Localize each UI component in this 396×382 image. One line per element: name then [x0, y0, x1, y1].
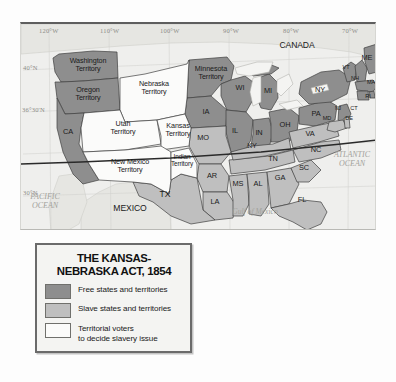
country-label-canada: CANADA	[269, 41, 325, 50]
label-indian-territory-line2: Territory	[161, 161, 203, 168]
longitude-label-100w: 100°W	[160, 27, 179, 34]
label-florida: FL	[293, 196, 311, 204]
map-figure: 120°W 110°W 100°W 90°W 80°W 70°W 40°N 36…	[0, 0, 396, 382]
label-delaware: DE	[342, 116, 356, 122]
label-nebraska-territory-line2: Territory	[125, 88, 183, 96]
legend-label-territorial-vote: Territorial voters to decide slavery iss…	[78, 323, 158, 345]
label-utah-territory: Utah Territory	[97, 120, 149, 135]
label-georgia: GA	[271, 174, 289, 182]
label-california: CA	[57, 128, 79, 136]
legend-label-slave: Slave states and territories	[78, 303, 171, 314]
label-louisiana: LA	[206, 198, 224, 206]
label-indian-territory: Indian Territory	[161, 154, 203, 167]
label-new-mexico-territory: New Mexico Territory	[95, 158, 165, 173]
label-connecticut: CT	[347, 106, 361, 112]
label-kentucky: KY	[243, 142, 261, 150]
legend-title-line2: NEBRASKA ACT, 1854	[45, 265, 183, 278]
legend-label-territorial-vote-line1: Territorial voters	[78, 324, 158, 334]
label-utah-territory-line2: Territory	[97, 128, 149, 136]
longitude-label-80w: 80°W	[283, 27, 299, 34]
label-new-jersey: NJ	[332, 106, 344, 111]
map-legend: THE KANSAS- NEBRASKA ACT, 1854 Free stat…	[35, 243, 192, 353]
label-tennessee: TN	[264, 155, 282, 163]
label-rhode-island: RI	[361, 94, 375, 100]
label-oregon-territory: Oregon Territory	[59, 86, 117, 101]
legend-item-territorial-vote: Territorial voters to decide slavery iss…	[45, 323, 183, 345]
label-minnesota-territory-line2: Territory	[183, 73, 239, 81]
label-oregon-territory-line2: Territory	[59, 94, 117, 102]
longitude-label-90w: 90°W	[223, 27, 239, 34]
ocean-label-pacific-line2: OCEAN	[22, 201, 68, 210]
label-new-hampshire: NH	[347, 76, 363, 82]
ocean-label-pacific: PACIFIC OCEAN	[22, 192, 68, 210]
longitude-label-110w: 110°W	[100, 27, 119, 34]
label-minnesota-territory: Minnesota Territory	[183, 65, 239, 80]
longitude-label-70w: 70°W	[342, 27, 358, 34]
legend-title-line1: THE KANSAS-	[45, 252, 183, 265]
legend-label-territorial-vote-line2: to decide slavery issue	[78, 334, 158, 344]
legend-swatch-territorial-vote	[45, 323, 71, 338]
label-iowa: IA	[197, 108, 215, 116]
label-south-carolina: SC	[295, 164, 313, 172]
ocean-label-gulf-of-mexico: Gulf of Mexico	[217, 208, 293, 217]
ocean-label-pacific-line1: PACIFIC	[22, 192, 68, 201]
label-mississippi: MS	[229, 180, 247, 188]
label-wisconsin: WI	[231, 84, 249, 92]
label-ohio: OH	[276, 121, 294, 129]
label-missouri: MO	[193, 134, 213, 142]
country-label-mexico: MEXICO	[103, 204, 157, 213]
ocean-label-atlantic: ATLANTIC OCEAN	[328, 150, 376, 168]
legend-item-slave: Slave states and territories	[45, 303, 183, 318]
legend-swatch-free	[45, 284, 71, 299]
label-washington-territory: Washington Territory	[57, 57, 119, 72]
latitude-label-40n: 40°N	[23, 64, 38, 71]
label-alabama: AL	[249, 180, 267, 188]
latitude-label-3630n: 36°30'N	[22, 106, 45, 113]
label-north-carolina: NC	[307, 146, 325, 154]
label-nebraska-territory: Nebraska Territory	[125, 80, 183, 95]
label-new-mexico-territory-line2: Territory	[95, 166, 165, 174]
label-indiana: IN	[250, 129, 268, 137]
label-maine: ME	[358, 54, 376, 62]
label-vermont: VT	[339, 65, 353, 71]
label-texas: TX	[154, 190, 176, 199]
legend-title: THE KANSAS- NEBRASKA ACT, 1854	[45, 252, 183, 278]
label-maryland: MD	[319, 116, 335, 122]
label-arkansas: AR	[203, 172, 221, 180]
label-virginia: VA	[301, 130, 319, 138]
ocean-label-atlantic-line1: ATLANTIC	[328, 150, 376, 159]
legend-swatch-slave	[45, 303, 71, 318]
label-washington-territory-line2: Territory	[57, 65, 119, 73]
map-canvas: 120°W 110°W 100°W 90°W 80°W 70°W 40°N 36…	[20, 22, 376, 230]
label-michigan: MI	[259, 87, 277, 95]
longitude-label-120w: 120°W	[39, 27, 58, 34]
label-new-york: NY	[311, 86, 329, 94]
label-illinois: IL	[226, 127, 244, 135]
ocean-label-atlantic-line2: OCEAN	[328, 159, 376, 168]
legend-item-free: Free states and territories	[45, 284, 183, 299]
label-massachusetts: MA	[362, 80, 376, 86]
legend-label-free: Free states and territories	[78, 284, 168, 295]
